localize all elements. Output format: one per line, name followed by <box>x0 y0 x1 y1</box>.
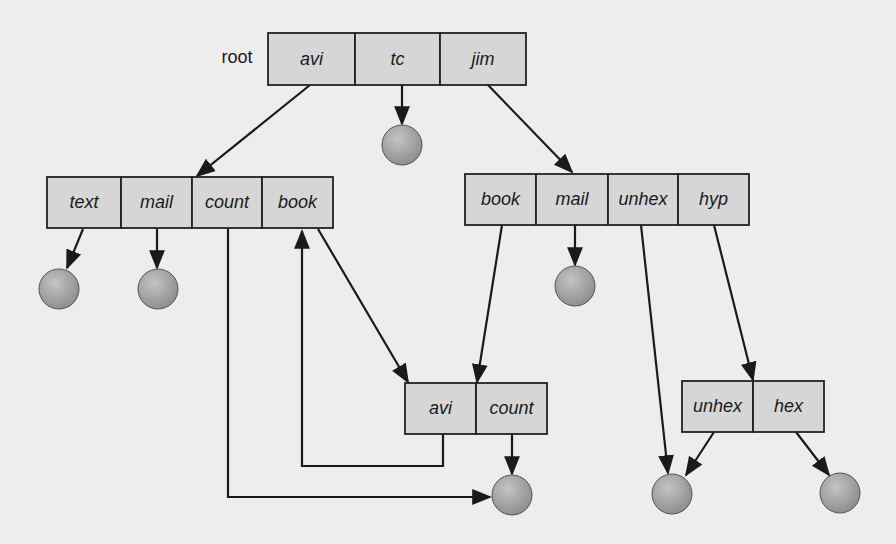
entry-label: mail <box>555 189 589 209</box>
count-file-icon[interactable] <box>492 475 532 515</box>
directory-entry-mail[interactable]: mail <box>536 174 608 225</box>
root-label: root <box>221 47 252 67</box>
entry-label: count <box>205 192 250 212</box>
directory-entry-count[interactable]: count <box>192 177 262 228</box>
hex-file-icon[interactable] <box>820 473 860 513</box>
entry-label: avi <box>429 398 453 418</box>
entry-label: avi <box>300 49 324 69</box>
edge-root-jim <box>488 85 572 172</box>
directory-entry-book[interactable]: book <box>262 177 333 228</box>
entry-label: unhex <box>693 396 743 416</box>
unhex-file-icon[interactable] <box>652 474 692 514</box>
entry-label: jim <box>469 49 495 69</box>
directory-entry-unhex[interactable]: unhex <box>682 381 753 432</box>
edge-jim-hyp <box>714 225 753 380</box>
directory-avi: textmailcountbook <box>47 177 333 228</box>
directory-entry-avi[interactable]: avi <box>405 383 476 434</box>
edges-layer <box>67 85 829 497</box>
directories-layer: avitcjimtextmailcountbookbookmailunhexhy… <box>47 33 824 434</box>
edge-avi-book <box>318 229 408 382</box>
edge-jim-hyp-hex <box>796 432 829 475</box>
entry-label: text <box>69 192 99 212</box>
directory-root: avitcjim <box>268 33 526 85</box>
entry-label: unhex <box>618 189 668 209</box>
entry-label: hyp <box>699 189 728 209</box>
edge-root-avi <box>197 85 310 176</box>
edge-jim-hyp-unhex <box>686 432 714 475</box>
edge-avi-count <box>228 229 490 497</box>
entry-label: tc <box>390 49 404 69</box>
mail-file-icon[interactable] <box>138 269 178 309</box>
tc-file-icon[interactable] <box>382 125 422 165</box>
entry-label: book <box>481 189 521 209</box>
diagram-canvas: avitcjimtextmailcountbookbookmailunhexhy… <box>0 0 896 544</box>
directory-entry-hex[interactable]: hex <box>753 381 824 432</box>
jim-mail-file-icon[interactable] <box>555 266 595 306</box>
directory-jim: bookmailunhexhyp <box>465 174 749 225</box>
directory-entry-hyp[interactable]: hyp <box>678 174 749 225</box>
directory-jim-book: avicount <box>405 383 547 434</box>
directory-graph-diagram: avitcjimtextmailcountbookbookmailunhexhy… <box>0 0 896 544</box>
directory-entry-book[interactable]: book <box>465 174 536 225</box>
entry-label: hex <box>774 396 804 416</box>
text-file-icon[interactable] <box>39 269 79 309</box>
edge-jim-unhex <box>641 225 668 473</box>
edge-jim-book <box>477 225 502 382</box>
directory-entry-mail[interactable]: mail <box>121 177 192 228</box>
entry-label: mail <box>140 192 174 212</box>
directory-jim-hyp: unhexhex <box>682 381 824 432</box>
directory-entry-jim[interactable]: jim <box>440 33 526 85</box>
directory-entry-unhex[interactable]: unhex <box>608 174 678 225</box>
entry-label: book <box>278 192 318 212</box>
entry-label: count <box>489 398 534 418</box>
directory-entry-count[interactable]: count <box>476 383 547 434</box>
directory-entry-avi[interactable]: avi <box>268 33 355 85</box>
edge-avi-text <box>67 229 83 268</box>
directory-entry-text[interactable]: text <box>47 177 121 228</box>
directory-entry-tc[interactable]: tc <box>355 33 440 85</box>
